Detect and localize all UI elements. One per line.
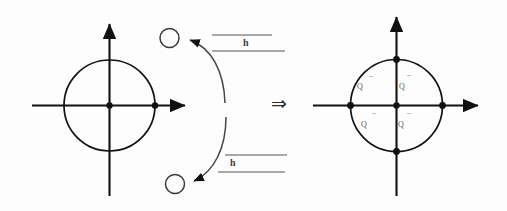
quadrant-4-bar: – <box>407 108 411 117</box>
right-coordinate-system <box>313 17 478 196</box>
quadrant-1-label: Q <box>399 83 405 91</box>
right-bottom-intersection-dot <box>393 148 400 155</box>
upper-open-circle <box>160 29 179 48</box>
quadrant-4-label: Q <box>398 121 404 129</box>
right-left-intersection-dot <box>347 102 354 109</box>
upper-operator-label: h <box>243 37 249 48</box>
implication-arrow: ⇒ <box>271 92 287 114</box>
lower-open-circle <box>166 175 185 194</box>
left-coordinate-system <box>32 24 185 196</box>
figure-canvas: ⇒ h h – Q – Q – Q – Q <box>0 0 507 211</box>
quadrant-3-label: Q <box>361 121 367 129</box>
right-right-intersection-dot <box>439 102 446 109</box>
quadrant-2-bar: – <box>369 71 373 80</box>
diagram-svg <box>0 0 507 211</box>
quadrant-2-label: Q <box>357 83 363 91</box>
quadrant-1-bar: – <box>407 70 411 79</box>
left-right-intersection-dot <box>152 102 158 108</box>
quadrant-3-bar: – <box>372 108 376 117</box>
right-origin-dot <box>393 102 399 108</box>
upper-curved-arrow <box>190 40 225 103</box>
lower-operator-label: h <box>230 157 236 168</box>
left-origin-dot <box>106 102 112 108</box>
right-top-intersection-dot <box>393 56 400 63</box>
